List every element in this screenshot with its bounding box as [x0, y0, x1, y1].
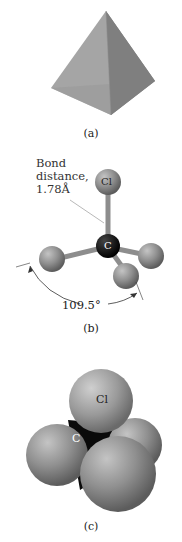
- bond-distance-value: 1.78Å: [36, 183, 70, 195]
- bond-leader-line: [70, 200, 104, 223]
- atom-label-cl: Cl: [101, 176, 112, 187]
- caption-c: (c): [0, 520, 182, 533]
- bond-label-line1: Bond: [36, 157, 66, 169]
- diagram-canvas: [0, 0, 182, 542]
- caption-b: (b): [0, 322, 182, 335]
- space-fill-atom-c: C: [72, 432, 80, 445]
- bond-angle-label: 109.5°: [62, 298, 101, 312]
- space-fill-atom-cl: Cl: [96, 393, 108, 406]
- atom-label-c: C: [104, 240, 112, 251]
- bond-label-line2: distance,: [36, 170, 89, 182]
- caption-a: (a): [0, 127, 182, 140]
- tetrahedron-icon: [51, 11, 155, 115]
- space-filling-model: [26, 369, 162, 512]
